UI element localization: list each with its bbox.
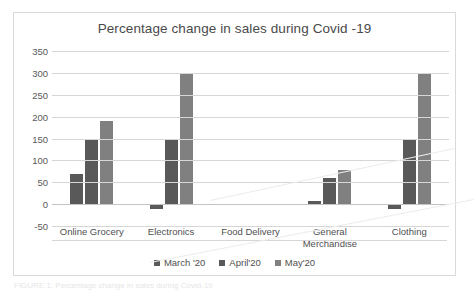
x-axis-category-label: General Merchandise: [290, 226, 369, 250]
y-axis-tick-labels: 350300250200150100500-50: [14, 51, 50, 226]
bar: [100, 121, 113, 204]
x-axis-category-labels: Online GroceryElectronicsFood DeliveryGe…: [52, 226, 447, 260]
legend-swatch-icon: [275, 260, 281, 266]
y-axis-tick: -50: [34, 221, 48, 232]
y-axis-tick: 350: [32, 46, 48, 57]
x-axis-category-label: Food Delivery: [211, 226, 290, 238]
figure-caption: FIGURE 1: Percentage change in sales dur…: [14, 281, 213, 290]
bar: [338, 170, 351, 204]
gridline: [52, 95, 449, 96]
y-axis-tick: 150: [32, 133, 48, 144]
chart-legend: March '20April'20May'20: [14, 257, 455, 268]
x-axis-category-label: Online Grocery: [52, 226, 131, 238]
plot-area: 350300250200150100500-50: [14, 51, 457, 226]
x-axis-category-label: Electronics: [131, 226, 210, 238]
y-axis-tick: 250: [32, 89, 48, 100]
gridline: [52, 51, 449, 52]
legend-label: April'20: [229, 257, 260, 268]
zero-gridline: [52, 204, 449, 205]
gridline: [52, 73, 449, 74]
y-axis-tick: 100: [32, 155, 48, 166]
bar: [70, 174, 83, 205]
chart-card: Percentage change in sales during Covid …: [13, 12, 456, 276]
legend-swatch-icon: [154, 260, 160, 266]
gridline: [52, 160, 449, 161]
bar: [165, 139, 178, 205]
bar: [403, 139, 416, 204]
chart-title: Percentage change in sales during Covid …: [14, 21, 455, 36]
y-axis-tick: 50: [37, 177, 48, 188]
y-axis-tick: 200: [32, 111, 48, 122]
legend-label: March '20: [164, 257, 205, 268]
legend-item[interactable]: March '20: [154, 257, 205, 268]
y-axis-tick: 0: [43, 199, 48, 210]
gridline: [52, 139, 449, 140]
plot-grid: [52, 51, 449, 226]
gridline: [52, 117, 449, 118]
legend-swatch-icon: [219, 260, 225, 266]
legend-item[interactable]: April'20: [219, 257, 260, 268]
x-axis-category-label: Clothing: [370, 226, 449, 238]
gridline: [52, 182, 449, 183]
y-axis-tick: 300: [32, 67, 48, 78]
bar: [85, 139, 98, 205]
legend-label: May'20: [285, 257, 315, 268]
axis-bottom-rule: [52, 240, 447, 241]
legend-item[interactable]: May'20: [275, 257, 315, 268]
